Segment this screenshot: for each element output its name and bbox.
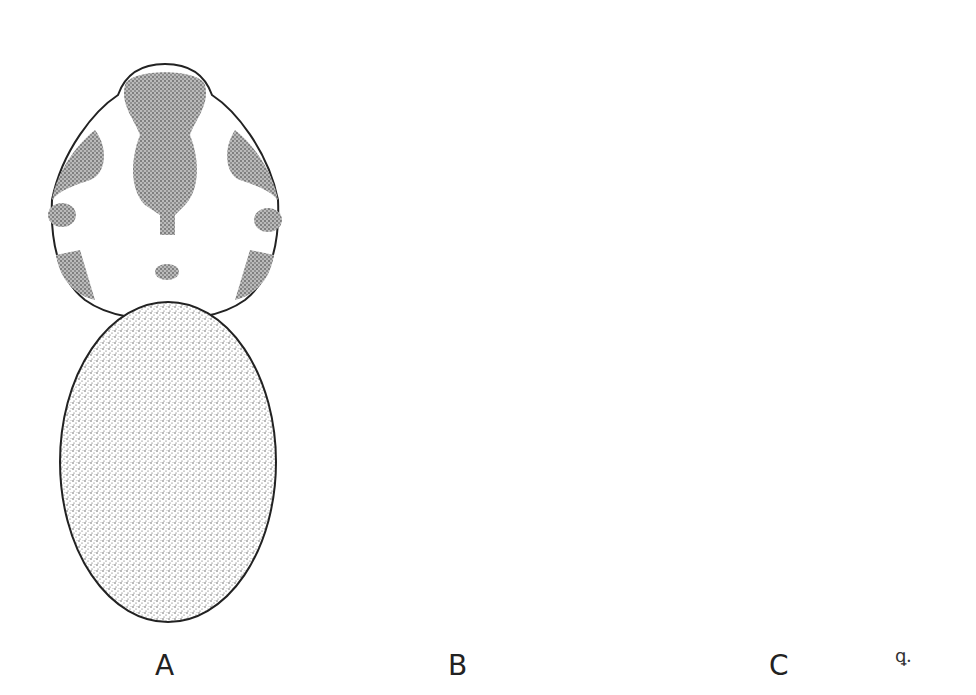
panel-label-c: C xyxy=(769,652,789,680)
artist-signature: ꝗ. xyxy=(895,645,912,666)
spider-illustration-plate xyxy=(0,0,976,695)
panel-label-a: A xyxy=(155,652,174,680)
panel-a-spider xyxy=(48,64,282,622)
panel-label-b: B xyxy=(448,652,467,680)
